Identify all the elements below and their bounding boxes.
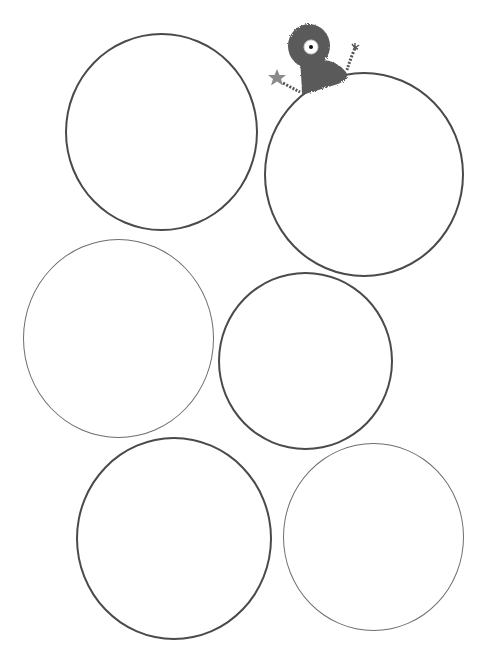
blank-circle-5 <box>76 437 272 640</box>
blank-circle-4 <box>218 272 393 450</box>
blank-circle-1 <box>65 33 258 231</box>
monster-illustration <box>262 10 372 100</box>
page-title: Blank circles worksheet <box>0 0 1 1</box>
right-arm-icon <box>347 43 359 70</box>
blank-circle-2 <box>264 72 464 277</box>
blank-circle-6 <box>283 443 464 631</box>
monster-body-icon <box>288 24 347 95</box>
monster-eye-icon <box>304 40 318 54</box>
left-arm-icon <box>283 83 300 92</box>
worksheet-page: Blank circles worksheet <box>0 0 494 663</box>
blank-circle-3 <box>23 239 214 438</box>
